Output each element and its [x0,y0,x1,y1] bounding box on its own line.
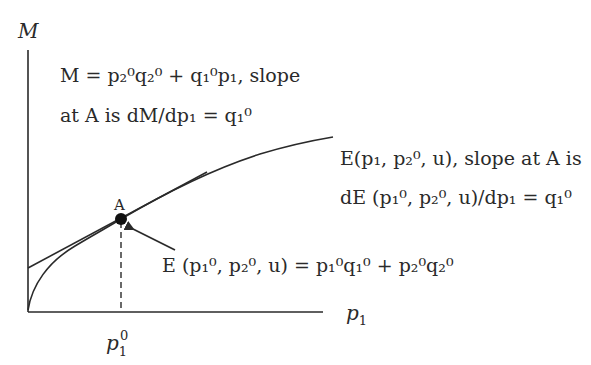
tangency-point-a [115,213,127,225]
budget-line-annotation-line1: M = p₂⁰q₂⁰ + q₁⁰p₁, slope [60,64,300,86]
x-axis-label: p1 [346,301,367,328]
expenditure-curve-annotation-line1: E(p₁, p₂⁰, u), slope at A is [340,147,582,169]
expenditure-curve [28,137,333,310]
annotation-arrow [133,229,175,250]
point-a-label: A [113,196,125,214]
y-axis-label: M [17,19,39,43]
expenditure-diagram: M p1 p10 A M = p₂⁰q₂⁰ + q₁⁰p₁, slope at … [0,0,591,365]
x-tick-label-p1-0: p10 [106,328,128,359]
tangency-annotation: E (p₁⁰, p₂⁰, u) = p₁⁰q₁⁰ + p₂⁰q₂⁰ [162,254,454,276]
budget-line-annotation-line2: at A is dM/dp₁ = q₁⁰ [60,104,252,126]
expenditure-curve-annotation-line2: dE (p₁⁰, p₂⁰, u)/dp₁ = q₁⁰ [340,186,572,208]
